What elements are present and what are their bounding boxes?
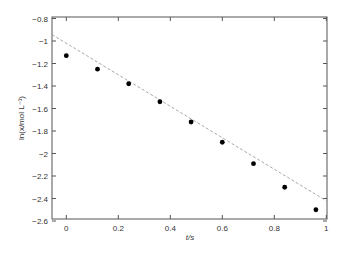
- chart: −0.8−1−1.2−1.4−1.6−1.8−2−2.2−2.4−2.6 00.…: [0, 0, 342, 253]
- fit-line-path: [52, 35, 327, 202]
- x-axis: 00.20.40.60.81: [64, 17, 329, 233]
- data-point: [282, 185, 287, 190]
- y-tick-label: −2.2: [32, 172, 48, 181]
- data-point: [64, 53, 69, 58]
- y-tick-label: −1.6: [32, 105, 48, 114]
- y-tick-label: −1.8: [32, 127, 48, 136]
- data-point: [220, 140, 225, 145]
- y-tick-label: −1.2: [32, 60, 48, 69]
- x-tick-label: 0.4: [165, 224, 177, 233]
- data-point: [189, 120, 194, 125]
- data-point: [158, 99, 163, 104]
- y-tick-label: −1.4: [32, 82, 48, 91]
- y-axis: −0.8−1−1.2−1.4−1.6−1.8−2−2.2−2.4−2.6: [32, 15, 327, 227]
- x-tick-label: 1: [324, 224, 329, 233]
- y-axis-label: ln(x/mol L⁻¹): [17, 96, 26, 140]
- y-tick-label: −2.6: [32, 217, 48, 226]
- data-points: [64, 53, 318, 212]
- x-tick-label: 0.8: [269, 224, 281, 233]
- y-tick-label: −1: [39, 37, 49, 46]
- fit-line: [52, 35, 327, 202]
- data-point: [251, 161, 256, 166]
- y-tick-label: −0.8: [32, 15, 48, 24]
- x-tick-label: 0.6: [217, 224, 229, 233]
- data-point: [95, 67, 100, 72]
- x-tick-label: 0.2: [113, 224, 125, 233]
- x-tick-label: 0: [64, 224, 69, 233]
- y-tick-label: −2.4: [32, 195, 48, 204]
- data-point: [126, 81, 131, 86]
- data-point: [314, 207, 319, 212]
- x-axis-label: t/s: [186, 233, 194, 242]
- y-tick-label: −2: [39, 150, 49, 159]
